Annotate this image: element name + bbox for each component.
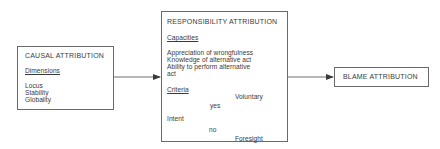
yes-label: yes <box>210 102 220 109</box>
no-label: no <box>209 126 216 133</box>
criteria-label: Criteria <box>167 86 189 93</box>
blame-attribution-title: BLAME ATTRIBUTION <box>343 73 418 80</box>
dimension-item: Globality <box>25 96 51 103</box>
responsibility-attribution-title: RESPONSIBILITY ATTRIBUTION <box>167 18 277 25</box>
foresight-outcome: Foresight <box>235 135 263 142</box>
capacity-item: Ability to perform alternative <box>167 63 250 70</box>
capacity-item: act <box>167 70 176 77</box>
responsibility-attribution-box <box>161 11 288 142</box>
intent-label: Intent <box>167 115 184 122</box>
causal-attribution-title: CAUSAL ATTRIBUTION <box>25 52 104 59</box>
voluntary-outcome: Voluntary <box>235 93 263 100</box>
dimensions-label: Dimensions <box>25 67 60 74</box>
capacities-label: Capacities <box>167 34 198 41</box>
